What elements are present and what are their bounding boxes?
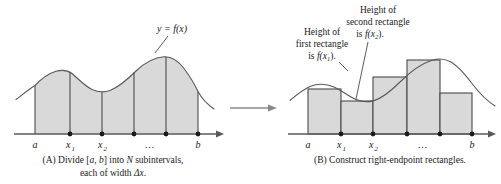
annotation-second-rectangle-line2: second rectangle	[346, 17, 410, 27]
panel-b-rectangle-1	[308, 89, 341, 134]
svg-text:x: x	[65, 139, 71, 150]
annotation-first-rectangle: Height of first rectangle is f(x1).	[296, 27, 349, 71]
panel-b-tick-dot-3	[405, 132, 410, 137]
panel-b-tick-dot-x2	[371, 132, 376, 137]
panel-a-tick-label-x2: x 2	[97, 139, 108, 153]
panel-b-caption-tag: (B)	[314, 155, 327, 166]
panel-a-tick-dot-x2	[100, 132, 105, 137]
svg-text:1: 1	[72, 145, 76, 153]
panel-a-caption-text-1: Divide [	[58, 155, 89, 165]
panel-a-caption-text-6: .	[144, 168, 146, 178]
panel-b-caption: (B) Construct right-endpoint rectangles.	[314, 155, 466, 166]
panel-a-x-axis-arrowhead	[216, 131, 224, 138]
panel-a-tick-label-a: a	[33, 139, 38, 150]
figure-svg: a x 1 x 2 … b y = f(x) (A) Divide [a, b]…	[0, 0, 501, 184]
annotation-second-rectangle-line3: is f(x2).	[356, 29, 384, 40]
panel-b-tick-label-x2: x 2	[368, 139, 379, 153]
svg-text:x: x	[97, 139, 103, 150]
panel-b-tick-label-x1: x 1	[336, 139, 346, 153]
panel-a-caption-text-4: subintervals,	[133, 155, 184, 165]
panel-a-caption-text-5: each of width	[80, 168, 134, 178]
panel-a-shaded-region	[35, 57, 198, 134]
annotation-first-rectangle-line3: is f(x1).	[308, 51, 336, 62]
panel-b-tick-label-ellipsis: …	[418, 139, 429, 150]
panel-a-tick-dot-4	[164, 132, 169, 137]
panel-b-tick-dot-4	[438, 132, 443, 137]
panel-b-rectangle-2	[341, 101, 373, 134]
svg-text:x: x	[336, 139, 342, 150]
panel-a-curve-label: y = f(x)	[156, 23, 188, 35]
figure-container: a x 1 x 2 … b y = f(x) (A) Divide [a, b]…	[0, 0, 501, 184]
panel-b-rectangle-5	[440, 93, 472, 134]
panel-b-tick-label-a: a	[306, 139, 311, 150]
panel-a-caption-line1: (A) Divide [a, b] into N subintervals,	[43, 155, 184, 166]
annotation-first-rectangle-pre: is	[308, 51, 317, 61]
panel-a-tick-label-x1: x 1	[65, 139, 75, 153]
panel-b-x-axis-arrowhead	[488, 131, 496, 138]
svg-text:1: 1	[343, 145, 347, 153]
panel-a-tick-dot-3	[132, 132, 137, 137]
annotation-second-rectangle-line1: Height of	[360, 5, 397, 15]
svg-text:2: 2	[104, 145, 108, 153]
panel-a-tick-label-ellipsis: …	[145, 139, 156, 150]
transition-arrow	[230, 104, 277, 111]
annotation-second-rectangle-pre: is	[356, 29, 365, 39]
panel-a-caption-tag: (A)	[43, 155, 56, 166]
svg-text:2: 2	[375, 145, 379, 153]
annotation-first-rectangle-line2: first rectangle	[296, 39, 349, 49]
panel-a-tick-dot-x1	[68, 132, 73, 137]
panel-a-caption-line2: each of width Δx.	[80, 168, 146, 178]
panel-a: a x 1 x 2 … b y = f(x) (A) Divide [a, b]…	[14, 23, 224, 178]
annotation-second-rectangle-leader-line	[356, 42, 368, 99]
annotation-first-rectangle-post: ).	[330, 51, 336, 62]
transition-arrow-head	[268, 104, 277, 111]
panel-a-tick-label-b: b	[196, 139, 201, 150]
annotation-first-rectangle-leader-line	[339, 62, 348, 71]
panel-a-caption-text-3: ] into	[104, 155, 127, 165]
svg-text:x: x	[368, 139, 374, 150]
panel-b-rectangle-3	[373, 77, 407, 134]
panel-a-tick-dot-b	[196, 132, 201, 137]
panel-b-tick-dot-b	[470, 132, 475, 137]
panel-b-tick-dot-x1	[339, 132, 344, 137]
panel-b-tick-label-b: b	[470, 139, 475, 150]
panel-b-rectangles	[308, 60, 472, 134]
panel-a-curve-leader-line	[155, 36, 168, 53]
panel-b: a x 1 x 2 … b Height of first rectangle …	[288, 5, 496, 166]
annotation-second-rectangle-post: ).	[378, 29, 384, 40]
annotation-first-rectangle-line1: Height of	[304, 27, 341, 37]
panel-b-caption-text: Construct right-endpoint rectangles.	[329, 155, 466, 165]
